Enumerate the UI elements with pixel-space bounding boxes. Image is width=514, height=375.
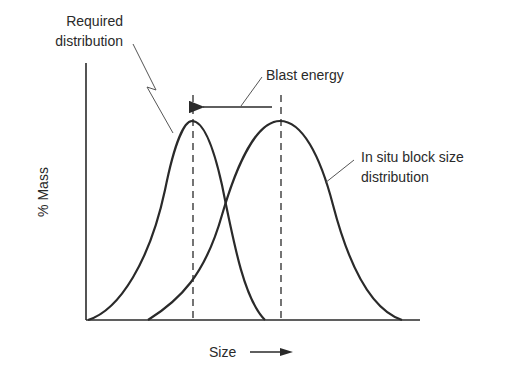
required-label-line2: distribution xyxy=(55,33,123,49)
blast-fragmentation-diagram: Required distribution Blast energy In si… xyxy=(0,0,514,375)
insitu-label-line1: In situ block size xyxy=(361,149,464,165)
insitu-label-line2: distribution xyxy=(361,169,429,185)
x-axis-direction-arrowhead xyxy=(280,348,293,356)
required-distribution-curve xyxy=(88,121,265,320)
blast-energy-label: Blast energy xyxy=(266,67,344,83)
x-axis-label: Size xyxy=(209,344,236,360)
insitu-distribution-leader xyxy=(325,160,354,183)
required-distribution-leader xyxy=(133,44,173,133)
required-label-line1: Required xyxy=(66,13,123,29)
y-axis-label: % Mass xyxy=(35,167,51,217)
blast-energy-leader xyxy=(241,77,262,106)
